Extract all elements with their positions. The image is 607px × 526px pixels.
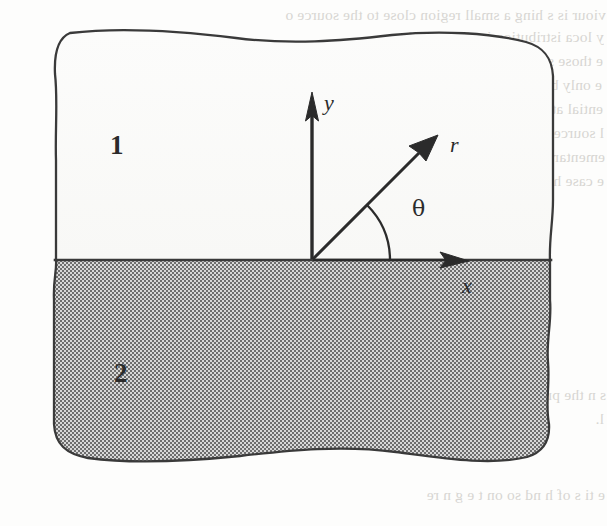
figure-root: viour is s hing a small region close to … <box>0 0 607 526</box>
region-lower-fill <box>54 260 551 461</box>
region-label-1: 1 <box>110 132 124 159</box>
region-upper-shape <box>55 30 553 260</box>
theta-angle-label: θ <box>412 198 425 220</box>
region-label-2: 2 <box>114 360 128 387</box>
y-axis-label: y <box>324 92 334 114</box>
x-axis-label: x <box>462 275 472 297</box>
region-lower-shape <box>54 260 551 461</box>
region-upper-fill <box>55 30 553 260</box>
r-vector-label: r <box>450 134 459 156</box>
two-region-diagram <box>0 0 607 526</box>
